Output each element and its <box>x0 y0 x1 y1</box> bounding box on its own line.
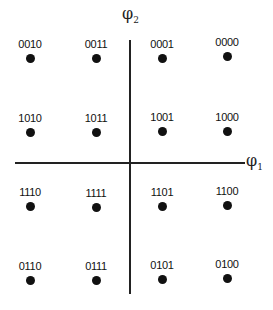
point-label: 1101 <box>132 186 192 198</box>
phi2-axis <box>129 40 131 294</box>
point-label: 0010 <box>0 38 60 50</box>
point-label: 1011 <box>66 112 126 124</box>
phi1-axis-label: φ1 <box>246 151 263 172</box>
constellation-point: 1000 <box>197 111 257 136</box>
point-label: 1010 <box>0 112 60 124</box>
constellation-point: 0101 <box>132 259 192 284</box>
point-dot <box>26 54 35 63</box>
constellation-point: 1111 <box>66 187 126 212</box>
constellation-point: 0001 <box>132 38 192 63</box>
point-dot <box>158 275 167 284</box>
point-label: 1100 <box>197 185 257 197</box>
point-dot <box>92 203 101 212</box>
constellation-point: 1110 <box>0 186 60 211</box>
point-label: 1111 <box>66 187 126 199</box>
constellation-point: 1100 <box>197 185 257 210</box>
phi2-axis-label: φ2 <box>122 4 139 25</box>
point-label: 1110 <box>0 186 60 198</box>
point-label: 0011 <box>66 38 126 50</box>
constellation-point: 0111 <box>66 260 126 285</box>
point-dot <box>26 128 35 137</box>
point-label: 0000 <box>197 36 257 48</box>
point-dot <box>26 276 35 285</box>
point-dot <box>223 201 232 210</box>
point-label: 0101 <box>132 259 192 271</box>
constellation-point: 1101 <box>132 186 192 211</box>
point-dot <box>158 202 167 211</box>
point-dot <box>158 127 167 136</box>
constellation-point: 0011 <box>66 38 126 63</box>
point-label: 0100 <box>197 258 257 270</box>
point-dot <box>92 128 101 137</box>
constellation-point: 1010 <box>0 112 60 137</box>
constellation-point: 0100 <box>197 258 257 283</box>
point-dot <box>92 276 101 285</box>
point-dot <box>223 127 232 136</box>
point-dot <box>223 274 232 283</box>
point-label: 0001 <box>132 38 192 50</box>
point-dot <box>223 52 232 61</box>
constellation-point: 0110 <box>0 260 60 285</box>
constellation-point: 0010 <box>0 38 60 63</box>
point-dot <box>26 202 35 211</box>
point-label: 1000 <box>197 111 257 123</box>
point-dot <box>158 54 167 63</box>
point-dot <box>92 54 101 63</box>
constellation-point: 1011 <box>66 112 126 137</box>
constellation-point: 0000 <box>197 36 257 61</box>
point-label: 1001 <box>132 111 192 123</box>
point-label: 0111 <box>66 260 126 272</box>
constellation-point: 1001 <box>132 111 192 136</box>
point-label: 0110 <box>0 260 60 272</box>
